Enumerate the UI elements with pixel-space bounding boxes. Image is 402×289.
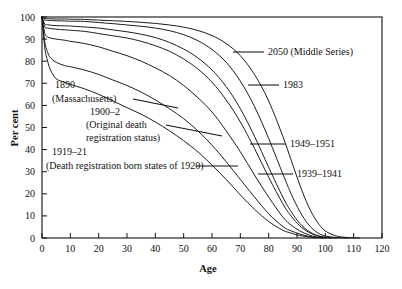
x-tick-label: 0 xyxy=(40,243,45,254)
annotation-1890: 1890 xyxy=(55,79,75,90)
x-tick-label: 100 xyxy=(318,243,333,254)
y-tick-label: 60 xyxy=(25,100,35,111)
annotation-1919-sub: (Death registration born states of 1920) xyxy=(46,160,203,172)
x-tick-label: 90 xyxy=(292,243,302,254)
x-tick-label: 10 xyxy=(65,243,75,254)
y-axis-ticks: 0102030405060708090100 xyxy=(20,12,47,244)
chart-page: 0102030405060708090100110120 01020304050… xyxy=(0,0,402,289)
annotation-1949: 1949–1951 xyxy=(290,138,335,149)
annotation-2050: 2050 (Middle Series) xyxy=(268,46,353,58)
y-tick-label: 100 xyxy=(20,12,35,23)
x-axis-title: Age xyxy=(199,263,217,274)
y-tick-label: 0 xyxy=(30,233,35,244)
x-tick-label: 40 xyxy=(150,243,160,254)
y-tick-label: 10 xyxy=(25,210,35,221)
y-tick-label: 20 xyxy=(25,188,35,199)
x-tick-label: 70 xyxy=(235,243,245,254)
annotation-1919: 1919–21 xyxy=(52,146,87,157)
annotation-1900: 1900–2 xyxy=(90,106,120,117)
annotation-1939: 1939–1941 xyxy=(297,168,342,179)
annotation-1900-sub-line2: registration status) xyxy=(86,132,160,144)
survival-curves-chart: 0102030405060708090100110120 01020304050… xyxy=(0,0,402,289)
y-tick-label: 90 xyxy=(25,34,35,45)
x-tick-label: 60 xyxy=(207,243,217,254)
annotation-1890-sub: (Massachusetts) xyxy=(52,93,116,105)
x-tick-label: 120 xyxy=(375,243,390,254)
y-axis-title: Per cent xyxy=(9,109,20,146)
x-tick-label: 50 xyxy=(179,243,189,254)
x-tick-label: 20 xyxy=(94,243,104,254)
y-tick-label: 70 xyxy=(25,78,35,89)
y-tick-label: 80 xyxy=(25,56,35,67)
x-tick-label: 80 xyxy=(264,243,274,254)
y-tick-label: 30 xyxy=(25,166,35,177)
x-tick-label: 30 xyxy=(122,243,132,254)
x-tick-label: 110 xyxy=(346,243,361,254)
y-tick-label: 50 xyxy=(25,122,35,133)
annotation-1983: 1983 xyxy=(283,79,303,90)
annotation-1900-sub-line1: (Original death xyxy=(86,119,147,131)
y-tick-label: 40 xyxy=(25,144,35,155)
